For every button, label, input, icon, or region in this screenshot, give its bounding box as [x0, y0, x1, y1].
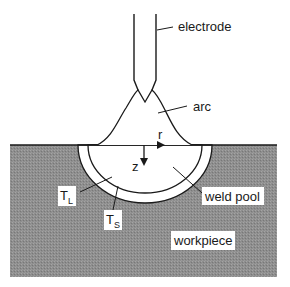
z-axis-label: z: [132, 159, 139, 174]
arc-label: arc: [193, 99, 212, 114]
electrode-label: electrode: [178, 19, 231, 34]
r-axis-label: r: [158, 127, 163, 142]
electrode: [134, 14, 156, 90]
arc-plume: [97, 90, 192, 145]
electrode-leader: [157, 27, 173, 30]
workpiece-label: workpiece: [173, 233, 233, 248]
welding-diagram: electrode arc r z weld pool workpiece TL…: [0, 0, 290, 287]
weld-pool-label: weld pool: [204, 189, 260, 204]
